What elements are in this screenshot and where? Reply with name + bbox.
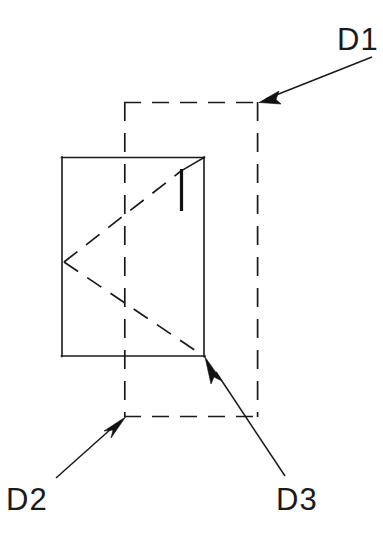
callout-d3-group[interactable]: D3 bbox=[205, 357, 318, 517]
technical-drawing-canvas: D1 D2 D3 bbox=[0, 0, 383, 543]
callout-d1-arrowhead bbox=[259, 91, 281, 104]
callout-d2-arrowhead bbox=[104, 417, 126, 438]
callout-d2-label: D2 bbox=[6, 482, 48, 517]
callout-d1-group[interactable]: D1 bbox=[259, 22, 379, 104]
callout-d1-label: D1 bbox=[337, 22, 379, 57]
hidden-lower-diagonal bbox=[64, 262, 205, 357]
callout-d2-leader-line bbox=[56, 428, 112, 478]
diagram-svg: D1 D2 D3 bbox=[0, 0, 383, 543]
callout-d2-group[interactable]: D2 bbox=[6, 417, 126, 517]
hidden-upper-diagonal bbox=[64, 171, 181, 262]
dashed-offset-outline-group bbox=[124, 102, 258, 417]
solid-front-face-group bbox=[62, 157, 206, 357]
corner-chamfer-line bbox=[181, 158, 204, 172]
internal-hidden-features-group bbox=[64, 171, 205, 357]
callout-d3-leader-line bbox=[216, 372, 285, 476]
callout-d3-label: D3 bbox=[276, 482, 318, 517]
callout-d1-leader-line bbox=[266, 57, 372, 99]
corner-detail-group bbox=[181, 158, 204, 212]
callout-d3-arrowhead bbox=[205, 357, 222, 384]
